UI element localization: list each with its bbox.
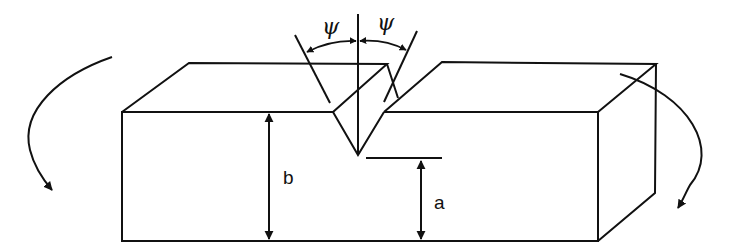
right-flank-line: [384, 31, 417, 102]
psi-right-label: ψ: [377, 10, 395, 35]
dimension-b-label: b: [283, 167, 294, 188]
left-rotation-arrow-icon: [28, 57, 112, 190]
psi-right-arc: [360, 41, 406, 50]
right-rotation-arrow-icon: [620, 74, 702, 208]
left-top-face: [122, 63, 387, 112]
psi-left-label: ψ: [322, 14, 340, 39]
notched-block-diagram: ψ ψ b a: [0, 0, 735, 252]
dimension-a-label: a: [434, 192, 445, 213]
front-face: [122, 112, 598, 241]
psi-left-arc: [307, 41, 356, 52]
right-side-face: [598, 64, 656, 241]
right-top-face: [384, 62, 656, 112]
